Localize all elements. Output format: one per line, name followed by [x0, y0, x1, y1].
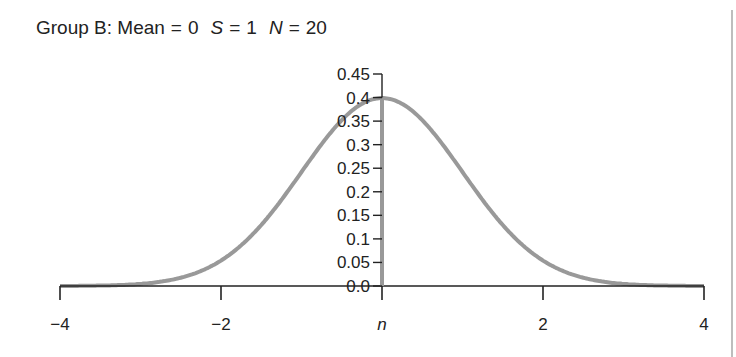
y-tick-label: 0.2 [346, 183, 370, 202]
x-tick-label: −4 [50, 315, 69, 334]
y-tick-label: 0.1 [346, 230, 370, 249]
x-tick-label: 2 [538, 315, 547, 334]
x-tick-label: n [377, 315, 386, 334]
y-tick-label: 0.35 [337, 112, 370, 131]
axes-layer: −4−2n240.00.050.10.150.20.250.30.350.40.… [50, 65, 708, 334]
y-tick-label: 0.3 [346, 136, 370, 155]
x-tick-label: 4 [699, 315, 708, 334]
page-divider-line [731, 10, 733, 357]
y-tick-label: 0.45 [337, 65, 370, 84]
y-tick-label: 0.05 [337, 253, 370, 272]
y-tick-label: 0.0 [346, 277, 370, 296]
y-tick-label: 0.15 [337, 206, 370, 225]
x-tick-label: −2 [211, 315, 230, 334]
y-tick-label: 0.25 [337, 159, 370, 178]
normal-distribution-chart: −4−2n240.00.050.10.150.20.250.30.350.40.… [0, 0, 736, 357]
y-tick-label: 0.4 [346, 89, 370, 108]
